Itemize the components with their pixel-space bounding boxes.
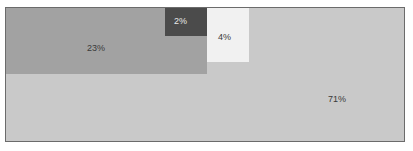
chart-plot-area: 23% 2% 4% 71% — [5, 7, 405, 142]
treemap-label-2: 2% — [174, 17, 187, 26]
treemap-label-4: 4% — [218, 33, 231, 42]
treemap-label-23: 23% — [87, 44, 105, 53]
treemap-label-71: 71% — [328, 95, 346, 104]
treemap-figure: 23% 2% 4% 71% — [0, 0, 413, 151]
clipped-top-text — [0, 0, 413, 5]
